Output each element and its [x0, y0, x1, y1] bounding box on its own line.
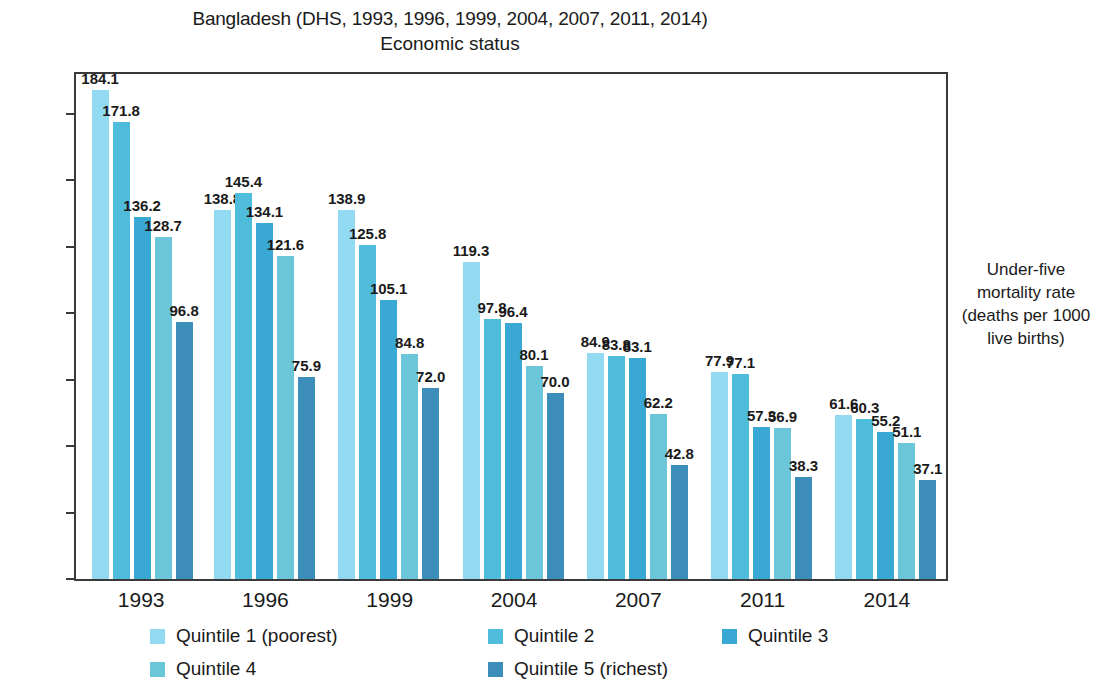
- legend-swatch-icon: [722, 629, 737, 644]
- y-axis-title: Under-five mortality rate (deaths per 10…: [960, 258, 1092, 350]
- bar[interactable]: [176, 322, 193, 579]
- bar[interactable]: [277, 256, 294, 579]
- bar[interactable]: [856, 419, 873, 579]
- bar[interactable]: [484, 319, 501, 579]
- page-title: Bangladesh (DHS, 1993, 1996, 1999, 2004,…: [0, 6, 900, 31]
- bar-value-label: 70.0: [534, 374, 576, 390]
- bar[interactable]: [711, 372, 728, 579]
- y-axis-tick-mark: [66, 578, 75, 580]
- y-axis-tick-mark: [66, 445, 75, 447]
- y-axis-tick-mark: [66, 512, 75, 514]
- bar[interactable]: [422, 388, 439, 579]
- bar-value-label: 121.6: [264, 237, 306, 253]
- y-axis-tick-mark: [66, 246, 75, 248]
- y-axis-tick-mark: [66, 312, 75, 314]
- bar-value-label: 96.4: [492, 304, 534, 320]
- bar[interactable]: [256, 223, 273, 579]
- bar[interactable]: [795, 477, 812, 579]
- bar[interactable]: [134, 217, 151, 579]
- legend-item-quintile-4[interactable]: Quintile 4: [150, 658, 256, 680]
- legend-item-label: Quintile 5 (richest): [514, 658, 668, 680]
- bar-value-label: 56.9: [762, 409, 804, 425]
- x-axis-tick-label: 1996: [210, 586, 320, 614]
- y-axis-tick-mark: [66, 179, 75, 181]
- bar[interactable]: [774, 428, 791, 579]
- bar-value-label: 75.9: [285, 358, 327, 374]
- bar[interactable]: [235, 193, 252, 579]
- bar-group-1993: 184.1171.8136.2128.796.8: [92, 74, 193, 579]
- bar-value-label: 119.3: [450, 243, 492, 259]
- bar-value-label: 96.8: [163, 303, 205, 319]
- bar[interactable]: [92, 90, 109, 579]
- bar-group-2007: 84.983.883.162.242.8: [587, 74, 688, 579]
- bar[interactable]: [732, 374, 749, 579]
- bar-value-label: 42.8: [658, 446, 700, 462]
- bar-value-label: 138.9: [326, 191, 368, 207]
- chart-subtitle: Economic status: [0, 31, 900, 56]
- bar-value-label: 37.1: [907, 461, 949, 477]
- x-axis-tick-label: 2004: [459, 586, 569, 614]
- bar[interactable]: [587, 353, 604, 579]
- bar[interactable]: [650, 414, 667, 579]
- legend-swatch-icon: [488, 662, 503, 677]
- bar[interactable]: [919, 480, 936, 579]
- legend-item-label: Quintile 1 (poorest): [176, 625, 338, 647]
- bar-group-2014: 61.660.355.251.137.1: [835, 74, 936, 579]
- legend-swatch-icon: [488, 629, 503, 644]
- bar-value-label: 62.2: [637, 395, 679, 411]
- legend-swatch-icon: [150, 629, 165, 644]
- bar[interactable]: [547, 393, 564, 579]
- bar[interactable]: [298, 377, 315, 579]
- legend-item-quintile-1[interactable]: Quintile 1 (poorest): [150, 625, 338, 647]
- bar[interactable]: [113, 122, 130, 579]
- x-axis-tick-label: 1999: [335, 586, 445, 614]
- x-axis-tick-label: 1993: [86, 586, 196, 614]
- legend-item-quintile-5[interactable]: Quintile 5 (richest): [488, 658, 668, 680]
- bar-value-label: 184.1: [79, 71, 121, 87]
- x-axis-tick-label: 2011: [708, 586, 818, 614]
- y-axis-tick-mark: [66, 379, 75, 381]
- legend-item-label: Quintile 4: [176, 658, 256, 680]
- bar-value-label: 128.7: [142, 218, 184, 234]
- bar-value-label: 145.4: [222, 174, 264, 190]
- bar[interactable]: [214, 210, 231, 579]
- bars-plot-area: 184.1171.8136.2128.796.8138.8145.4134.11…: [76, 74, 946, 579]
- legend: Quintile 1 (poorest)Quintile 2Quintile 3…: [150, 625, 1020, 687]
- bar-value-label: 72.0: [410, 369, 452, 385]
- bar-group-1999: 138.9125.8105.184.872.0: [338, 74, 439, 579]
- bar[interactable]: [877, 432, 894, 579]
- bar-value-label: 38.3: [783, 458, 825, 474]
- legend-item-quintile-2[interactable]: Quintile 2: [488, 625, 594, 647]
- bar[interactable]: [401, 354, 418, 579]
- x-axis: 1993199619992004200720112014: [76, 586, 946, 618]
- bar-group-2011: 77.977.157.356.938.3: [711, 74, 812, 579]
- bar[interactable]: [155, 237, 172, 579]
- legend-swatch-icon: [150, 662, 165, 677]
- x-axis-tick-label: 2014: [832, 586, 942, 614]
- legend-item-label: Quintile 3: [748, 625, 828, 647]
- bar-value-label: 51.1: [886, 424, 928, 440]
- bar[interactable]: [526, 366, 543, 579]
- bar[interactable]: [753, 427, 770, 579]
- title-block: Bangladesh (DHS, 1993, 1996, 1999, 2004,…: [0, 6, 900, 56]
- bar-value-label: 84.8: [389, 335, 431, 351]
- bar[interactable]: [671, 465, 688, 579]
- legend-item-quintile-3[interactable]: Quintile 3: [722, 625, 828, 647]
- bar-value-label: 77.1: [720, 355, 762, 371]
- bar-value-label: 171.8: [100, 103, 142, 119]
- bar-value-label: 125.8: [347, 226, 389, 242]
- bar[interactable]: [608, 356, 625, 579]
- bar-value-label: 136.2: [121, 198, 163, 214]
- bar-value-label: 134.1: [243, 204, 285, 220]
- bar[interactable]: [338, 210, 355, 579]
- y-axis: 0255075100125150175: [0, 0, 74, 691]
- bar[interactable]: [835, 415, 852, 579]
- bar-value-label: 105.1: [368, 281, 410, 297]
- x-axis-tick-label: 2007: [583, 586, 693, 614]
- bar-group-2004: 119.397.896.480.170.0: [463, 74, 564, 579]
- bar-group-1996: 138.8145.4134.1121.675.9: [214, 74, 315, 579]
- bar-value-label: 80.1: [513, 347, 555, 363]
- legend-item-label: Quintile 2: [514, 625, 594, 647]
- bar[interactable]: [629, 358, 646, 579]
- bar-value-label: 83.1: [616, 339, 658, 355]
